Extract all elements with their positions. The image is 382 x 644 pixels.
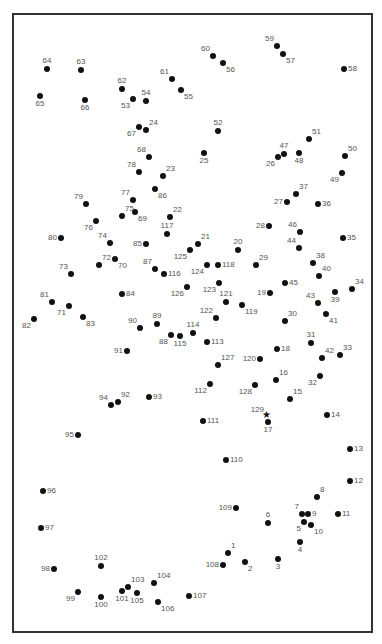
dot-board: 1234567891011121314151617181920212223242… bbox=[0, 0, 382, 644]
dot-number-label: 107 bbox=[193, 592, 206, 600]
dot-number-label: 83 bbox=[86, 320, 95, 328]
dot-icon bbox=[296, 245, 302, 251]
dot-number-label: 28 bbox=[256, 222, 265, 230]
dot-number-label: 26 bbox=[266, 160, 275, 168]
dot-icon bbox=[265, 520, 271, 526]
dot-number-label: 37 bbox=[299, 183, 308, 191]
dot-number-label: 33 bbox=[343, 344, 352, 352]
dot-icon bbox=[125, 584, 131, 590]
dot-number-label: 66 bbox=[81, 104, 90, 112]
dot-icon bbox=[335, 511, 341, 517]
dot-icon bbox=[317, 373, 323, 379]
dot-number-label: 61 bbox=[160, 68, 169, 76]
dot-number-label: 25 bbox=[200, 157, 209, 165]
dot-number-label: 92 bbox=[121, 391, 130, 399]
dot-number-label: 55 bbox=[184, 93, 193, 101]
dot-number-label: 5 bbox=[297, 525, 301, 533]
dot-number-label: 88 bbox=[159, 338, 168, 346]
dot-icon bbox=[215, 362, 221, 368]
dot-icon bbox=[204, 262, 210, 268]
dot-icon bbox=[98, 563, 104, 569]
dot-icon bbox=[266, 223, 272, 229]
dot-number-label: 50 bbox=[348, 145, 357, 153]
dot-number-label: 48 bbox=[295, 157, 304, 165]
dot-icon bbox=[154, 321, 160, 327]
dot-number-label: 52 bbox=[214, 119, 223, 127]
dot-number-label: 129 bbox=[251, 406, 264, 414]
dot-icon bbox=[314, 494, 320, 500]
dot-number-label: 12 bbox=[354, 477, 363, 485]
dot-number-label: 62 bbox=[118, 77, 127, 85]
dot-icon bbox=[200, 418, 206, 424]
dot-number-label: 79 bbox=[74, 193, 83, 201]
dot-number-label: 86 bbox=[158, 192, 167, 200]
dot-icon bbox=[337, 352, 343, 358]
dot-icon bbox=[284, 199, 290, 205]
dot-icon bbox=[187, 247, 193, 253]
dot-icon bbox=[51, 566, 57, 572]
dot-number-label: 8 bbox=[320, 486, 324, 494]
dot-icon bbox=[83, 201, 89, 207]
dot-icon bbox=[287, 396, 293, 402]
dot-icon bbox=[306, 136, 312, 142]
dot-number-label: 23 bbox=[166, 165, 175, 173]
dot-number-label: 18 bbox=[281, 345, 290, 353]
dot-icon bbox=[186, 593, 192, 599]
dot-number-label: 76 bbox=[84, 224, 93, 232]
dot-icon bbox=[347, 446, 353, 452]
dot-icon bbox=[78, 67, 84, 73]
dot-icon bbox=[223, 299, 229, 305]
dot-number-label: 36 bbox=[322, 200, 331, 208]
dot-number-label: 31 bbox=[307, 331, 316, 339]
dot-icon bbox=[169, 76, 175, 82]
dot-icon bbox=[49, 299, 55, 305]
dot-icon bbox=[282, 280, 288, 286]
dot-icon bbox=[274, 346, 280, 352]
dot-number-label: 112 bbox=[194, 387, 207, 395]
dot-number-label: 111 bbox=[207, 417, 219, 425]
dot-icon bbox=[38, 525, 44, 531]
dot-number-label: 20 bbox=[234, 238, 243, 246]
dot-number-label: 80 bbox=[48, 234, 57, 242]
dot-number-label: 22 bbox=[173, 206, 182, 214]
dot-number-label: 91 bbox=[114, 347, 123, 355]
dot-number-label: 124 bbox=[191, 268, 204, 276]
dot-number-label: 47 bbox=[280, 142, 289, 150]
dot-icon bbox=[143, 98, 149, 104]
dot-number-label: 9 bbox=[312, 510, 316, 518]
dot-number-label: 101 bbox=[115, 595, 128, 603]
dot-number-label: 3 bbox=[276, 563, 280, 571]
dot-number-label: 63 bbox=[77, 58, 86, 66]
dot-number-label: 117 bbox=[161, 222, 174, 230]
dot-number-label: 40 bbox=[322, 265, 331, 273]
dot-icon bbox=[75, 432, 81, 438]
dot-number-label: 7 bbox=[295, 503, 299, 511]
dot-number-label: 73 bbox=[59, 263, 68, 271]
dot-number-label: 123 bbox=[203, 286, 216, 294]
dot-icon bbox=[339, 170, 345, 176]
dot-icon bbox=[347, 478, 353, 484]
dot-number-label: 74 bbox=[98, 232, 107, 240]
dot-number-label: 70 bbox=[118, 262, 127, 270]
dot-icon bbox=[220, 562, 226, 568]
dot-number-label: 38 bbox=[316, 252, 325, 260]
dot-number-label: 114 bbox=[187, 321, 200, 329]
dot-number-label: 57 bbox=[286, 57, 295, 65]
dot-icon bbox=[167, 214, 173, 220]
dot-number-label: 87 bbox=[143, 258, 152, 266]
dot-icon bbox=[297, 229, 303, 235]
dot-number-label: 35 bbox=[347, 234, 356, 242]
dot-number-label: 59 bbox=[265, 35, 274, 43]
dot-number-label: 19 bbox=[257, 289, 266, 297]
dot-number-label: 102 bbox=[94, 554, 107, 562]
dot-number-label: 95 bbox=[65, 431, 74, 439]
dot-number-label: 60 bbox=[201, 45, 210, 53]
dot-number-label: 10 bbox=[314, 528, 323, 536]
dot-icon bbox=[341, 66, 347, 72]
dot-number-label: 108 bbox=[206, 561, 219, 569]
dot-number-label: 64 bbox=[43, 57, 52, 65]
dot-number-label: 69 bbox=[138, 215, 147, 223]
dot-icon bbox=[310, 260, 316, 266]
dot-number-label: 11 bbox=[342, 510, 350, 518]
dot-number-label: 116 bbox=[168, 270, 181, 278]
